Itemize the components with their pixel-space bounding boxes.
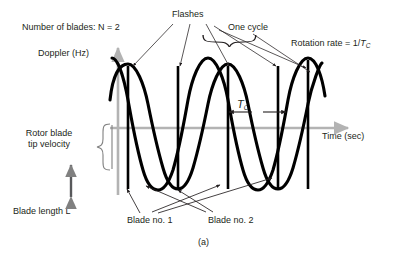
- doppler-waveforms: [110, 58, 325, 190]
- rotor-velocity-brace: [97, 124, 110, 170]
- blade-1-leader-c: [158, 178, 272, 213]
- flashes-leader-5: [219, 30, 306, 68]
- flash-lines: [128, 60, 308, 189]
- flashes-leader-1: [133, 24, 173, 66]
- one-cycle-leader: [253, 34, 310, 72]
- flashes-leader-2: [180, 24, 190, 66]
- blade-2-leader-a: [178, 190, 213, 212]
- micro-doppler-diagram: [0, 0, 397, 256]
- one-cycle-brace: [203, 35, 256, 47]
- blade-1-leader-a: [127, 189, 140, 213]
- flashes-leaders: [133, 24, 306, 68]
